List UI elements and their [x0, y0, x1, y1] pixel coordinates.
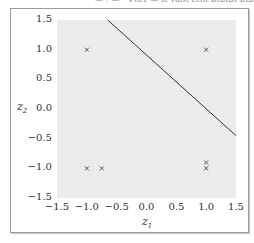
data-point-x-marker: [100, 166, 104, 170]
x-tick-label: 0.0: [132, 201, 162, 212]
y-tick-label: 0.5: [22, 72, 52, 83]
data-point-x-marker: [204, 166, 208, 170]
x-tick-label: −0.5: [102, 201, 132, 212]
y-tick-label: 1.5: [22, 13, 52, 24]
data-point-x-marker: [85, 48, 89, 52]
y-axis-label: z2: [17, 100, 27, 115]
x-tick-label: 1.0: [191, 201, 221, 212]
x-axis-label: z1: [142, 215, 152, 230]
x-tick-label: 1.5: [221, 201, 251, 212]
y-tick-label: −1.0: [22, 161, 52, 172]
x-tick-label: 0.5: [161, 201, 191, 212]
decision-boundary-line: [108, 20, 236, 136]
data-point-x-marker: [204, 48, 208, 52]
x-tick-label: −1.0: [72, 201, 102, 212]
data-point-x-marker: [85, 166, 89, 170]
x-tick-label: −1.5: [42, 201, 72, 212]
y-tick-label: 1.0: [22, 43, 52, 54]
data-point-x-marker: [204, 160, 208, 164]
y-tick-label: −0.5: [22, 132, 52, 143]
